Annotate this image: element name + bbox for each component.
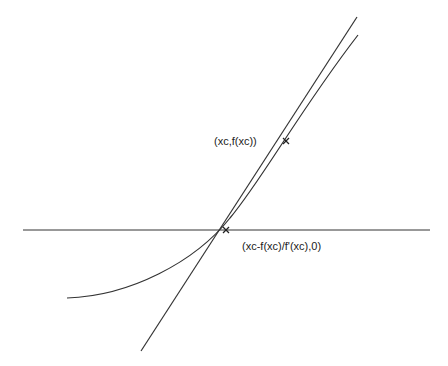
tangent-line (141, 17, 357, 351)
function-curve (67, 35, 358, 298)
newton-diagram: (xc,f(xc)) (xc-f(xc)/f'(xc),0) (0, 0, 448, 366)
x-intercept-label: (xc-f(xc)/f'(xc),0) (242, 240, 321, 252)
tangent-point-label: (xc,f(xc)) (214, 135, 257, 147)
